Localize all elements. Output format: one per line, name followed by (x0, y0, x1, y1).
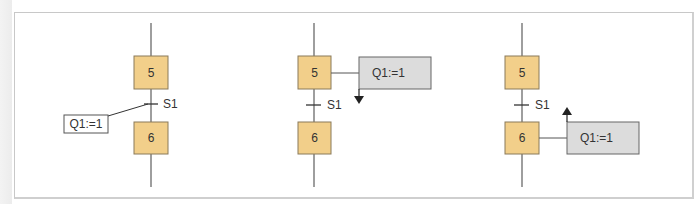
step-5: 5 (134, 56, 168, 89)
step-5: 5 (298, 56, 331, 89)
step-action: Q1:=1 (331, 57, 431, 104)
panel-1: 5 S1 6 Q1:=1 (64, 23, 178, 187)
step-number: 6 (311, 131, 318, 145)
step-6: 6 (298, 122, 331, 154)
step-number: 5 (519, 66, 526, 80)
sfc-diagram: 5 S1 6 Q1:=1 5 S1 6 (0, 0, 699, 204)
transition-s1: S1 (306, 98, 342, 112)
step-action: Q1:=1 (539, 107, 639, 154)
transition-s1: S1 (514, 98, 550, 112)
step-6: 6 (505, 122, 539, 154)
transition-s1: S1 (144, 97, 178, 111)
arrow-up-icon (562, 107, 572, 122)
panel-3: 5 S1 6 Q1:=1 (505, 23, 639, 187)
transition-label: S1 (163, 97, 178, 111)
action-label: Q1:=1 (580, 131, 613, 145)
step-number: 6 (148, 131, 155, 145)
action-connector (108, 104, 148, 116)
step-number: 6 (519, 131, 526, 145)
action-label: Q1:=1 (372, 66, 405, 80)
step-6: 6 (134, 122, 168, 154)
panel-2: 5 S1 6 Q1:=1 (298, 23, 431, 187)
step-number: 5 (311, 66, 318, 80)
transition-label: S1 (535, 98, 550, 112)
step-5: 5 (505, 56, 539, 89)
transition-label: S1 (327, 98, 342, 112)
step-number: 5 (148, 66, 155, 80)
action-label: Q1:=1 (69, 117, 102, 131)
arrow-down-icon (354, 89, 364, 104)
